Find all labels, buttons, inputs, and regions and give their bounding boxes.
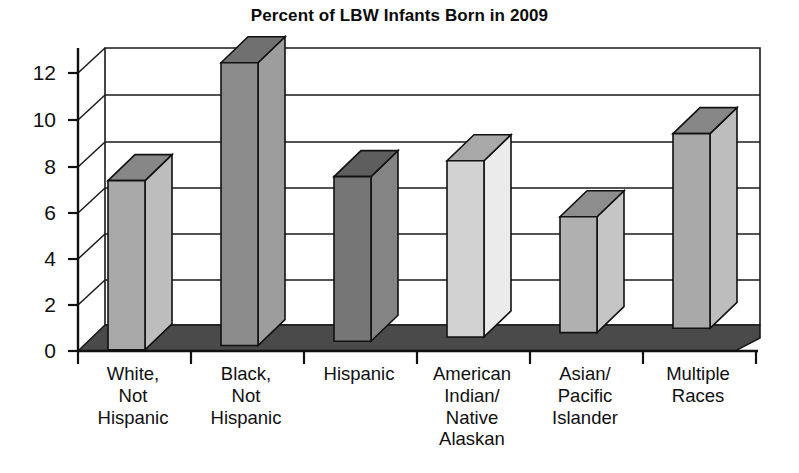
y-tick-label-8: 8 [16, 156, 56, 177]
x-category-label-white-not-hispanic: White, Not Hispanic [75, 363, 191, 428]
chart-floor [78, 325, 760, 351]
y-axis-ticks [68, 73, 78, 351]
bar-3 [334, 151, 398, 342]
bar-2 [221, 37, 285, 346]
x-category-label-black-not-hispanic: Black, Not Hispanic [188, 363, 304, 428]
y-tick-label-10: 10 [16, 109, 56, 130]
depth-connectors [78, 48, 105, 305]
y-tick-label-4: 4 [16, 248, 56, 269]
bar-4 [447, 135, 511, 337]
y-tick-label-12: 12 [16, 62, 56, 83]
x-category-label-asian-pacific-islander: Asian/ Pacific Islander [527, 363, 643, 428]
y-tick-label-0: 0 [16, 340, 56, 361]
bar-1 [108, 155, 172, 350]
x-category-label-multiple-races: Multiple Races [640, 363, 756, 407]
y-tick-label-2: 2 [16, 294, 56, 315]
bar-chart-figure: Percent of LBW Infants Born in 2009 [0, 0, 799, 473]
bar-6 [673, 108, 737, 329]
back-wall [105, 48, 760, 325]
bar-5 [560, 191, 624, 333]
y-tick-label-6: 6 [16, 202, 56, 223]
x-category-label-american-indian-native-alaskan: American Indian/ Native Alaskan [414, 363, 530, 450]
x-category-label-hispanic: Hispanic [301, 363, 417, 385]
